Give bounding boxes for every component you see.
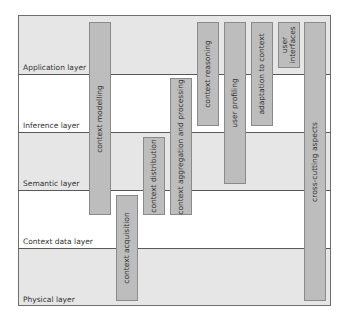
box-context-reasoning: context reasoning xyxy=(197,22,219,126)
box-user-profiling: user profiling xyxy=(224,22,246,184)
box-label: user profiling xyxy=(231,78,239,127)
box-context-acquisition: context acquisition xyxy=(116,195,138,301)
layer-label-inference: Inference layer xyxy=(23,121,79,130)
layer-label-context-data: Context data layer xyxy=(23,237,93,246)
box-context-distribution: context distribution xyxy=(143,137,165,215)
layer-divider xyxy=(18,248,331,249)
layer-divider xyxy=(18,74,331,75)
box-label: adaptation to context xyxy=(258,33,266,114)
box-user-interfaces: userinterfaces xyxy=(278,22,300,68)
box-context-aggregation-processing: context aggregation and processing xyxy=(170,78,192,215)
box-adaptation-to-context: adaptation to context xyxy=(251,22,273,126)
layer-label-semantic: Semantic layer xyxy=(23,179,79,188)
box-cross-cutting-aspects: cross-cutting aspects xyxy=(304,22,326,301)
box-label: context modelling xyxy=(96,85,104,153)
box-label: context acquisition xyxy=(123,212,131,283)
layer-label-application: Application layer xyxy=(23,63,86,72)
box-label: userinterfaces xyxy=(281,26,297,63)
layer-label-physical: Physical layer xyxy=(23,295,75,304)
box-label: context aggregation and processing xyxy=(177,79,185,214)
box-label: context reasoning xyxy=(204,40,212,108)
box-label: cross-cutting aspects xyxy=(311,122,319,202)
box-label: context distribution xyxy=(150,139,158,212)
box-context-modelling: context modelling xyxy=(89,22,111,215)
